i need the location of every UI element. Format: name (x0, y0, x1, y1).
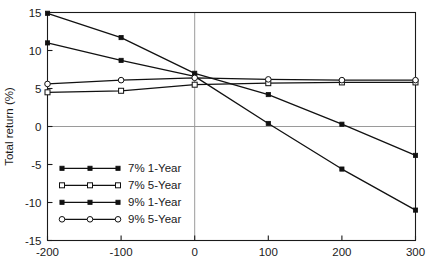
data-point-marker (59, 217, 65, 223)
data-point-marker (115, 217, 121, 223)
data-point-marker (88, 166, 92, 170)
data-point-marker (60, 200, 64, 204)
data-point-marker (266, 121, 270, 125)
data-point-marker (60, 183, 65, 188)
data-point-marker (116, 166, 120, 170)
line-chart: -200-1000100200300 -15-10-5051015 Total … (0, 0, 434, 268)
data-point-marker (339, 77, 345, 83)
y-tick-label: 0 (35, 121, 41, 133)
y-tick-label: -10 (25, 197, 42, 209)
chart-background (0, 0, 434, 268)
x-tick-label: 0 (191, 246, 197, 258)
data-point-marker (45, 81, 51, 87)
legend-label: 7% 5-Year (128, 179, 181, 191)
data-point-marker (119, 88, 124, 93)
data-point-marker (340, 167, 344, 171)
y-tick-label: -15 (25, 235, 42, 247)
x-tick-label: 200 (332, 246, 351, 258)
chart-figure: -200-1000100200300 -15-10-5051015 Total … (0, 0, 434, 268)
y-tick-label: 5 (35, 83, 41, 95)
data-point-marker (266, 77, 272, 83)
data-point-marker (119, 35, 123, 39)
data-point-marker (118, 77, 124, 83)
data-point-marker (119, 58, 123, 62)
data-point-marker (413, 208, 417, 212)
data-point-marker (45, 11, 49, 15)
x-tick-label: -100 (110, 246, 133, 258)
y-axis-title: Total return (%) (3, 87, 15, 166)
data-point-marker (87, 217, 93, 223)
data-point-marker (192, 82, 197, 87)
data-point-marker (45, 41, 49, 45)
data-point-marker (88, 200, 92, 204)
data-point-marker (413, 77, 419, 83)
legend-label: 9% 5-Year (128, 213, 181, 225)
y-tick-label: -5 (31, 159, 41, 171)
data-point-marker (192, 75, 198, 81)
y-tick-label: 10 (29, 45, 42, 57)
data-point-marker (413, 153, 417, 157)
legend-label: 7% 1-Year (128, 162, 181, 174)
data-point-marker (45, 90, 50, 95)
x-tick-label: 100 (259, 246, 278, 258)
data-point-marker (340, 122, 344, 126)
x-tick-label: -200 (36, 246, 59, 258)
data-point-marker (60, 166, 64, 170)
data-point-marker (266, 92, 270, 96)
data-point-marker (88, 183, 93, 188)
data-point-marker (116, 183, 121, 188)
y-tick-label: 15 (29, 7, 42, 19)
x-tick-label: 300 (406, 246, 425, 258)
data-point-marker (116, 200, 120, 204)
legend-label: 9% 1-Year (128, 196, 181, 208)
